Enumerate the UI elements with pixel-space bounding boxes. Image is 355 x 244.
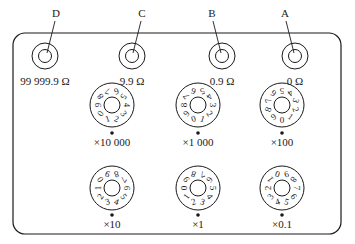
terminal-value-C: 9.9 Ω: [120, 76, 145, 87]
dial-x10: [90, 166, 134, 217]
svg-text:7: 7: [181, 91, 192, 101]
terminal-letter-B: B: [208, 8, 215, 19]
svg-text:1: 1: [286, 111, 296, 122]
dial-multiplier-x100: ×100: [271, 137, 294, 148]
svg-text:9: 9: [181, 174, 192, 184]
svg-text:2: 2: [204, 109, 215, 119]
terminal-B: [209, 21, 235, 69]
svg-text:2: 2: [190, 196, 197, 207]
svg-text:7: 7: [263, 96, 274, 104]
dial-multiplier-x1000: ×1 000: [183, 137, 214, 148]
svg-text:1: 1: [104, 113, 111, 124]
svg-text:0: 0: [280, 115, 285, 125]
terminal-value-A: 0 Ω: [287, 76, 303, 87]
svg-text:5: 5: [279, 86, 284, 96]
terminal-letter-D: D: [52, 8, 60, 19]
svg-text:8: 8: [112, 169, 120, 180]
svg-text:6: 6: [268, 88, 278, 99]
svg-text:8: 8: [95, 91, 106, 101]
svg-text:5: 5: [198, 86, 206, 97]
dial-multiplier-x10: ×10: [103, 219, 120, 230]
svg-text:4: 4: [122, 103, 132, 108]
svg-text:0: 0: [179, 185, 189, 190]
dial-multiplier-x0.1: ×0.1: [272, 219, 292, 230]
svg-text:3: 3: [208, 103, 218, 108]
dial-x0.1: [260, 166, 304, 217]
svg-text:2: 2: [263, 186, 273, 191]
svg-text:9: 9: [103, 169, 111, 180]
svg-text:6: 6: [288, 192, 299, 202]
svg-text:1: 1: [265, 175, 276, 185]
terminal-letter-A: A: [281, 8, 289, 19]
terminal-A: [282, 21, 308, 69]
svg-text:9: 9: [269, 111, 279, 122]
terminal-C: [119, 21, 145, 69]
box-outline: [13, 33, 341, 234]
svg-text:1: 1: [93, 186, 103, 191]
svg-text:4: 4: [285, 88, 295, 99]
dial-x1: [176, 166, 220, 217]
terminal-value-D: 99 999.9 Ω: [20, 76, 69, 87]
svg-text:6: 6: [122, 186, 132, 191]
svg-text:4: 4: [204, 192, 215, 202]
svg-text:9: 9: [282, 169, 290, 180]
svg-text:9: 9: [93, 102, 103, 107]
svg-text:8: 8: [179, 102, 189, 107]
dial-multiplier-x10000: ×10 000: [94, 137, 130, 148]
svg-text:5: 5: [208, 186, 218, 191]
svg-text:7: 7: [198, 169, 206, 180]
terminal-letter-C: C: [138, 8, 145, 19]
svg-text:7: 7: [292, 186, 302, 191]
terminal-D: [32, 21, 58, 69]
dial-multiplier-x1: ×1: [192, 219, 204, 230]
svg-text:3: 3: [104, 196, 112, 207]
resistance-box-diagram: 0123456789012345678901234567890123456789…: [0, 0, 355, 244]
svg-text:4: 4: [274, 196, 282, 207]
terminal-value-B: 0.9 Ω: [210, 76, 235, 87]
svg-text:2: 2: [290, 106, 301, 113]
svg-text:6: 6: [112, 86, 120, 97]
svg-text:3: 3: [118, 109, 129, 119]
svg-text:5: 5: [118, 192, 129, 202]
